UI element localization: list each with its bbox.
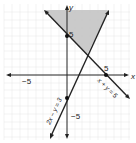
- y-tick-5: 5: [69, 30, 74, 39]
- x-tick-neg5: −5: [22, 77, 32, 86]
- graph: y x −5 5 5 −5 x + y = 5 2x − y = 3: [0, 0, 136, 143]
- x-axis-label: x: [130, 72, 136, 81]
- point-5-0: [104, 73, 108, 77]
- line1-label: x + y = 5: [95, 76, 119, 100]
- x-tick-5: 5: [104, 64, 109, 73]
- point-0-neg3: [65, 96, 69, 100]
- y-tick-neg5: −5: [71, 112, 81, 121]
